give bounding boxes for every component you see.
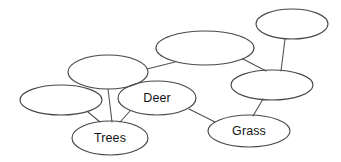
node-far-left[interactable] <box>20 85 102 115</box>
concept-map-graphic <box>0 0 341 162</box>
node-deer[interactable] <box>118 81 196 115</box>
node-right-middle[interactable] <box>231 70 313 100</box>
node-top-right[interactable] <box>256 9 328 39</box>
edge-deer-to-grass <box>189 109 215 122</box>
edge-far-left-to-trees <box>88 112 100 122</box>
concept-map-canvas: DeerTreesGrass <box>0 0 341 162</box>
edge-right-middle-to-grass <box>253 99 263 116</box>
edge-top-middle-to-right-middle <box>243 59 266 71</box>
node-layer <box>20 9 328 155</box>
node-top-middle[interactable] <box>156 31 254 65</box>
edge-top-right-to-right-middle <box>281 39 285 71</box>
node-trees[interactable] <box>72 121 148 155</box>
edge-upper-left-to-trees <box>108 89 112 122</box>
edge-deer-to-trees <box>120 111 130 122</box>
edge-upper-left-to-top-middle <box>147 62 175 69</box>
node-grass[interactable] <box>208 115 290 147</box>
